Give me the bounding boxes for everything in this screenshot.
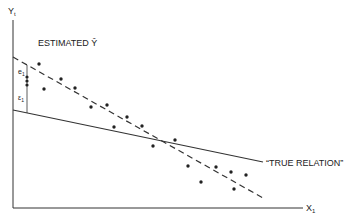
true-relation-label: “TRUE RELATION” [266,158,343,168]
data-point [186,164,189,167]
true-relation-line [13,110,263,162]
data-point [42,87,45,90]
data-point [244,173,247,176]
regression-diagram: Yt X1 ESTIMATED Ŷ “TRUE RELATION” e1 ε1 [0,0,361,224]
data-point [89,105,92,108]
data-point [173,138,176,141]
data-point [199,180,202,183]
data-point [73,86,76,89]
data-point [37,62,40,65]
data-point [232,187,235,190]
error-label: ε1 [18,94,24,103]
data-point [151,144,154,147]
residual-dot [25,75,28,78]
data-point [59,77,62,80]
residual-dot [25,79,28,82]
estimated-line [13,57,263,198]
data-point [105,103,108,106]
data-point [125,115,128,118]
estimated-label: ESTIMATED Ŷ [38,38,97,48]
data-point [229,170,232,173]
data-point [112,125,115,128]
x-axis-label: X1 [306,203,316,214]
residual-label: e1 [18,68,25,77]
data-point [214,165,217,168]
data-point [140,124,143,127]
residual-dot [25,83,28,86]
y-axis-label: Yt [8,6,16,17]
